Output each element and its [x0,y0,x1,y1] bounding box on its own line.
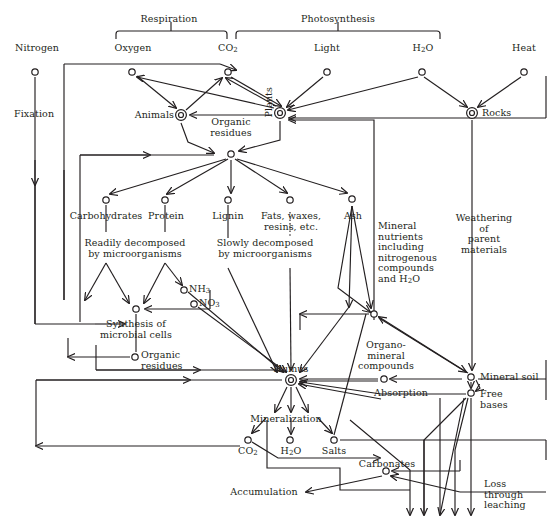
arrow-leach-3 [440,398,464,515]
arrow-leach-2 [424,398,466,515]
node-label-nitrogen: Nitrogen [15,43,59,54]
node-heat[interactable] [521,69,527,75]
arrow-or-fats [235,159,287,193]
node-label-ash: Ash [344,211,362,222]
arrow-protein-nh3 [165,263,182,285]
node-label-protein: Protein [148,211,184,222]
arrow-oxygen-animals [137,76,176,108]
node-label-mineral-soil: Mineral soil [480,372,539,383]
node-label-carbonates: Carbonates [359,459,415,470]
node-nh3[interactable] [181,287,187,293]
arrow-or-ash [237,159,347,193]
node-label-synthesis: Synthesis of microbial cells [100,319,172,340]
arrow-animals-co2 [186,78,222,110]
node-light[interactable] [324,69,330,75]
node-label-rocks: Rocks [482,108,511,119]
node-label-carbohydrates: Carbohydrates [70,211,143,222]
arrow-or-carbohydrates [110,159,226,194]
diagram-canvas [0,0,549,531]
node-free-bases[interactable] [468,390,474,396]
bracket-label-photosynthesis: Photosynthesis [301,14,375,25]
node-label-organic-residues-top: Organic residues [210,117,252,138]
node-nitrogen[interactable] [32,69,38,75]
node-label-salts: Salts [322,446,346,457]
node-label-mineralization: Mineralization [250,414,322,425]
node-label-plants: Plants [264,87,275,118]
node-co2-bottom[interactable] [245,437,251,443]
node-label-h2o-top: H2O [413,43,434,56]
node-organo-mineral[interactable] [381,376,387,382]
bracket-photosynthesis [236,22,440,39]
edge-label-slowly-decomposed: Slowly decomposed by microorganisms [217,238,314,259]
node-label-organic-residues-mid: Organic residues [141,350,183,371]
arrow-humus-mineralization-r [296,387,308,412]
node-salts[interactable] [331,437,337,443]
arrow-leach-4 [455,398,468,515]
arrow-protein-synthesis [144,263,165,303]
arrow-carb-synthesis [85,263,106,300]
node-ash[interactable] [349,196,355,202]
arrow-animals-organicresidues [181,123,214,153]
arrow-absorption-humus [300,382,381,394]
node-mineral-nutrients-junction[interactable] [371,311,377,317]
edge-label-loss-leaching: Loss through leaching [484,479,526,511]
node-co2-top[interactable] [225,69,231,75]
node-organic-residues-mid[interactable] [132,354,138,360]
node-plants[interactable] [275,108,286,119]
node-synthesis[interactable] [133,306,139,312]
node-humus[interactable] [286,375,297,386]
node-oxygen[interactable] [129,69,135,75]
node-label-h2o-bottom: H2O [281,446,302,459]
line-salts-junction [334,314,366,435]
node-label-fats-waxes: Fats, waxes, resins, etc. [261,211,321,232]
arrow-carb-synthesis2 [106,263,129,303]
edge-label-absorption: Absorption [374,388,428,399]
edge-label-accumulation: Accumulation [230,487,297,498]
arrow-h2o-plants [288,77,418,110]
node-carbohydrates[interactable] [103,197,109,203]
node-fats-waxes[interactable] [287,197,293,203]
edge-label-readily-decomposed: Readily decomposed by microorganisms [85,238,186,259]
arrow-heat-rocks [478,77,521,107]
node-label-free-bases: Free bases [480,389,508,410]
node-h2o-top[interactable] [419,69,425,75]
node-organic-residues-top[interactable] [228,151,234,157]
edge-label-fixation: Fixation [14,109,54,120]
node-protein[interactable] [162,197,168,203]
node-label-lignin: Lignin [212,211,243,222]
edge-label-mineral-nutrients: Mineral nutrients including nitrogenous … [378,221,437,286]
edge-label-weathering: Weathering of parent materials [452,213,517,255]
node-label-animals: Animals [135,110,174,121]
arrow-h2o-rocks [424,77,467,107]
arrow-humus-mineralization-l [275,387,287,412]
bracket-respiration [116,22,227,39]
node-label-co2-top: CO2 [218,43,238,56]
node-label-oxygen: Oxygen [115,43,152,54]
arrow-or-protein [167,159,228,194]
arrow-fats-humus [290,268,291,370]
node-rocks[interactable] [467,108,478,119]
node-label-light: Light [314,43,340,54]
node-animals[interactable] [176,110,187,121]
bracket-label-respiration: Respiration [141,14,198,25]
node-label-organo-mineral: Organo- mineral compounds [358,340,414,372]
node-label-heat: Heat [512,43,536,54]
node-mineral-soil[interactable] [468,374,474,380]
arrow-co2-carbonates [252,442,380,458]
node-label-no3: NO3 [199,298,220,311]
node-h2o-bottom[interactable] [287,437,293,443]
node-no3[interactable] [191,301,197,307]
soil-cycle-diagram: Respiration Photosynthesis Nitrogen Oxyg… [0,0,549,531]
node-label-co2-bottom: CO2 [238,446,258,459]
node-lignin[interactable] [225,197,231,203]
node-label-nh3: NH3 [189,284,210,297]
arrow-lignin-humus [228,268,277,372]
node-label-humus: Humus [274,364,309,375]
